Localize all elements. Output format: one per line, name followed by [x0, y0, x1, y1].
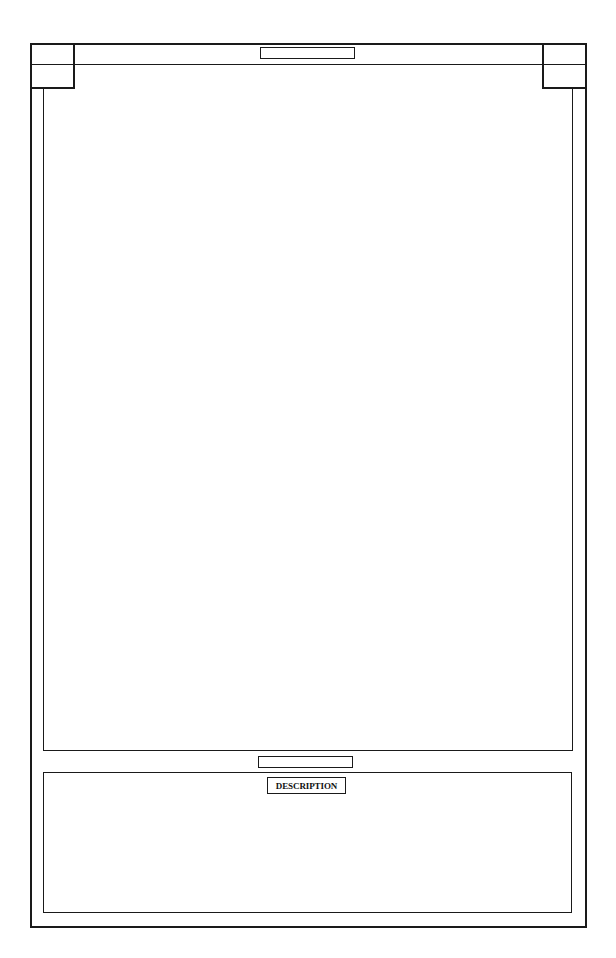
caption-field[interactable] [258, 756, 353, 768]
description-label: DESCRIPTION [267, 777, 346, 794]
corner-box-top-left [30, 43, 75, 89]
corner-box-top-right [542, 43, 587, 89]
title-field[interactable] [260, 47, 355, 59]
header-divider [30, 64, 587, 65]
main-panel [43, 87, 573, 751]
